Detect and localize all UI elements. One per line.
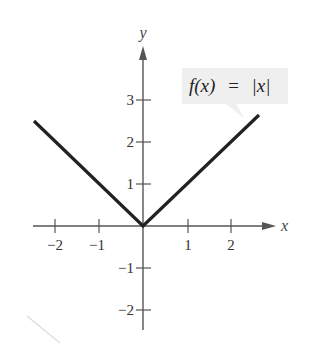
y-tick-label: −2 [118, 302, 134, 318]
chart: f(x) = |x| x −2 −1 1 2 y 3 2 1 −1 −2 [0, 0, 316, 345]
y-axis-label: y [137, 24, 147, 42]
y-axis: y 3 2 1 −1 −2 [118, 24, 151, 330]
x-axis: x −2 −1 1 2 [33, 217, 288, 253]
y-tick-label: −1 [118, 260, 134, 276]
x-tick-label: −2 [47, 237, 63, 253]
function-label-callout: f(x) = |x| [182, 68, 288, 118]
x-axis-label: x [280, 217, 288, 234]
x-tick-label: −1 [89, 237, 105, 253]
y-tick-label: 3 [127, 92, 135, 108]
x-tick-label: 1 [184, 237, 192, 253]
stray-line [27, 316, 60, 343]
abs-function-curve [34, 115, 259, 226]
x-tick-label: 2 [227, 237, 235, 253]
x-axis-arrow-icon [262, 222, 276, 230]
y-axis-arrow-icon [139, 46, 147, 60]
y-tick-label: 1 [127, 176, 135, 192]
y-tick-label: 2 [127, 134, 135, 150]
function-label: f(x) = |x| [189, 75, 270, 97]
